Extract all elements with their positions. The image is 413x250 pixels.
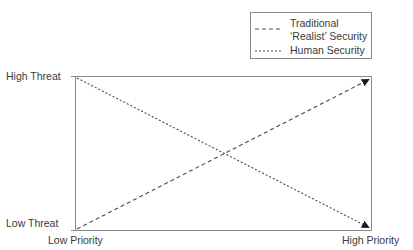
human-security-line (77, 78, 368, 227)
traditional-security-line (77, 80, 368, 229)
plot-area (0, 0, 413, 250)
security-priority-diagram: Traditional ‘Realist’ Security Human Sec… (0, 0, 413, 250)
